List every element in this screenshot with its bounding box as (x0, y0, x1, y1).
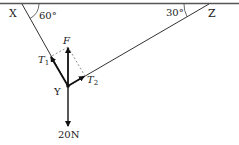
label-f: F (62, 35, 71, 46)
angle-arc-z (184, 4, 187, 17)
label-angle-z: 30° (166, 7, 184, 18)
label-t1: T1 (38, 54, 49, 67)
label-y: Y (53, 86, 61, 97)
force-arrow-t1 (51, 57, 68, 86)
point-y-dot (66, 84, 70, 88)
label-angle-x: 60° (39, 10, 57, 21)
force-diagram: X 60° 30° Z F T1 T2 Y 20N (0, 0, 239, 145)
label-z: Z (208, 7, 216, 20)
label-t1-subscript: 1 (45, 59, 49, 67)
label-x: X (9, 7, 17, 20)
label-t2-subscript: 2 (94, 79, 98, 87)
label-t2: T2 (87, 74, 98, 87)
force-arrow-t2 (68, 77, 84, 87)
angle-arc-x (30, 4, 39, 19)
label-weight: 20N (58, 129, 80, 140)
dashed-line-f-t1 (50, 47, 68, 57)
dashed-line-f-t2 (68, 47, 85, 76)
